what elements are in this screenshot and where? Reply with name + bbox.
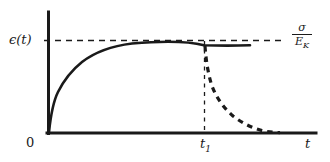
asymptote-denominator-base: E xyxy=(295,35,303,48)
asymptote-label: σ EΚ xyxy=(292,22,312,50)
origin-label: 0 xyxy=(26,136,34,149)
asymptote-denominator-subscript: Κ xyxy=(303,41,309,50)
creep-recovery-figure: ϵ(t) 0 t1 t σ EΚ xyxy=(0,0,330,162)
x-tick-label-t1: t1 xyxy=(200,137,211,154)
y-axis-label: ϵ(t) xyxy=(9,33,32,46)
recovery-curve xyxy=(205,46,280,133)
t1-subscript: 1 xyxy=(205,144,211,154)
creep-curve xyxy=(49,42,250,132)
asymptote-denominator: EΚ xyxy=(292,34,312,50)
asymptote-numerator: σ xyxy=(292,22,312,34)
plot-canvas xyxy=(0,0,330,162)
x-axis-label: t xyxy=(305,137,310,150)
